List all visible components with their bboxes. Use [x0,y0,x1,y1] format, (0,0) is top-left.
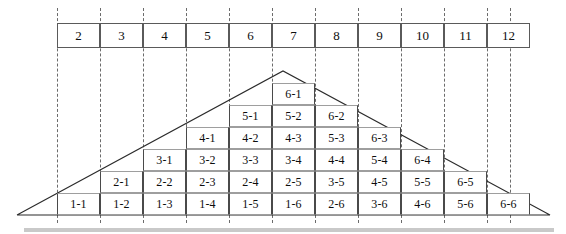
combination-cell-5-4: 5-4 [358,149,401,171]
combination-cell-1-4: 1-4 [186,193,229,215]
combination-cell-2-4: 2-4 [229,171,272,193]
dice-sum-pyramid-figure: 23456789101112 1-11-22-11-32-23-11-42-33… [0,0,566,234]
sum-label-box-2: 2 [57,23,100,48]
sum-label-box-9: 9 [358,23,401,48]
combination-cell-4-4: 4-4 [315,149,358,171]
sum-label-box-7: 7 [272,23,315,48]
combination-cell-5-2: 5-2 [272,105,315,127]
combination-cell-3-2: 3-2 [186,149,229,171]
combination-cell-5-1: 5-1 [229,105,272,127]
combination-cell-3-3: 3-3 [229,149,272,171]
combination-cell-1-5: 1-5 [229,193,272,215]
sum-label-box-10: 10 [401,23,444,48]
combination-cell-2-2: 2-2 [143,171,186,193]
sum-label-box-6: 6 [229,23,272,48]
combination-cell-1-2: 1-2 [100,193,143,215]
combination-cell-5-5: 5-5 [401,171,444,193]
combination-cell-4-2: 4-2 [229,127,272,149]
combination-cell-1-3: 1-3 [143,193,186,215]
sum-label-box-4: 4 [143,23,186,48]
combination-cell-6-6: 6-6 [487,193,530,215]
combination-cell-1-6: 1-6 [272,193,315,215]
combination-cell-1-1: 1-1 [57,193,100,215]
combination-cell-2-1: 2-1 [100,171,143,193]
sum-label-box-8: 8 [315,23,358,48]
combination-cell-4-6: 4-6 [401,193,444,215]
sum-label-box-3: 3 [100,23,143,48]
combination-cell-2-5: 2-5 [272,171,315,193]
combination-cell-5-3: 5-3 [315,127,358,149]
combination-cell-3-1: 3-1 [143,149,186,171]
sum-label-box-5: 5 [186,23,229,48]
combination-cell-2-6: 2-6 [315,193,358,215]
combination-cell-5-6: 5-6 [444,193,487,215]
combination-cell-4-3: 4-3 [272,127,315,149]
sum-label-box-11: 11 [444,23,487,48]
combination-cell-2-3: 2-3 [186,171,229,193]
bottom-grey-band [24,228,554,232]
combination-cell-6-3: 6-3 [358,127,401,149]
combination-cell-6-1: 6-1 [272,83,315,105]
combination-cell-4-1: 4-1 [186,127,229,149]
combination-cell-6-2: 6-2 [315,105,358,127]
combination-cell-3-5: 3-5 [315,171,358,193]
combination-cell-3-4: 3-4 [272,149,315,171]
sum-label-box-12: 12 [487,23,530,48]
combination-cell-3-6: 3-6 [358,193,401,215]
combination-cell-6-4: 6-4 [401,149,444,171]
combination-cell-4-5: 4-5 [358,171,401,193]
combination-cell-6-5: 6-5 [444,171,487,193]
